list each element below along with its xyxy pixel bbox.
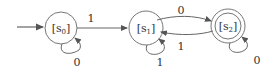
transition-label-s1-s2: 0 [178,4,185,17]
transition-s1-s2 [157,16,211,21]
transition-s2-s1 [161,31,213,35]
svg-text:[s2]: [s2] [219,20,238,34]
state-s2-accepting: [s2] [211,9,245,43]
transition-label-s0-s0: 0 [74,56,81,69]
svg-text:[s1]: [s1] [137,22,156,36]
transition-label-s1-s1: 1 [157,56,164,69]
transition-label-s0-s1: 1 [88,12,95,25]
transition-label-s2-s1: 1 [178,40,185,53]
state-s1: [s1] [129,11,163,45]
state-diagram: [s0] 0 1 [s1] 1 0 1 [s2] 0 [0,0,273,72]
diagram-svg: [s0] 0 1 [s1] 1 0 1 [s2] 0 [0,0,273,72]
svg-text:[s0]: [s0] [52,22,71,36]
state-s0: [s0] [45,12,77,44]
transition-s1-s1 [146,39,164,54]
transition-label-s2-s2: 0 [254,54,261,67]
